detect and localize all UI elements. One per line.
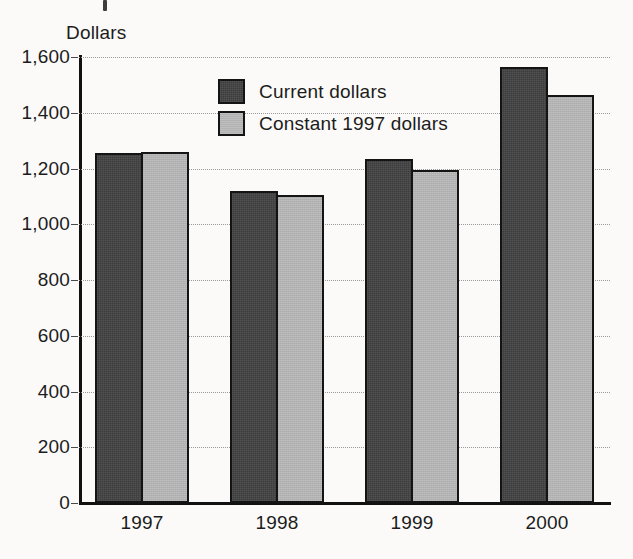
scan-artifact-mark <box>103 0 107 11</box>
y-axis-tick <box>71 447 78 448</box>
x-axis-tick-label-2000: 2000 <box>525 512 568 534</box>
y-axis-tick-label: 800 <box>38 269 70 291</box>
y-axis-tick-label: 1,400 <box>21 102 70 124</box>
legend-item-constant-1997-dollars: Constant 1997 dollars <box>218 111 448 136</box>
legend-label-current-dollars: Current dollars <box>259 81 387 103</box>
bar-1998-current <box>230 191 278 503</box>
y-axis-tick <box>71 280 78 281</box>
bar-1999-current <box>365 159 413 503</box>
y-axis-tick-label: 1,200 <box>21 158 70 180</box>
y-axis-tick <box>71 113 78 114</box>
legend-label-constant-1997-dollars: Constant 1997 dollars <box>259 113 448 135</box>
y-axis-tick <box>71 57 78 58</box>
bar-2000-current <box>500 67 548 503</box>
x-axis-tick-label-1999: 1999 <box>390 512 433 534</box>
legend-swatch-current-dollars <box>218 79 245 104</box>
y-axis-tick-label: 0 <box>59 492 70 514</box>
bar-1997-current <box>95 153 143 503</box>
bar-1999-constant <box>411 170 459 503</box>
legend-item-current-dollars: Current dollars <box>218 79 387 104</box>
bar-2000-constant <box>546 95 594 503</box>
chart-figure: Dollars 02004006008001,0001,2001,4001,60… <box>0 0 633 559</box>
y-axis-tick-labels: 02004006008001,0001,2001,4001,600 <box>0 0 70 559</box>
y-axis-tick <box>71 336 78 337</box>
y-axis-tick <box>71 224 78 225</box>
y-axis-title: Dollars <box>66 22 127 44</box>
x-axis-tick-label-1998: 1998 <box>255 512 298 534</box>
bar-1997-constant <box>141 152 189 503</box>
y-axis-tick <box>71 503 78 504</box>
x-axis-tick-label-1997: 1997 <box>120 512 163 534</box>
y-axis-tick-label: 400 <box>38 381 70 403</box>
y-axis-tick <box>71 392 78 393</box>
y-axis-tick-label: 600 <box>38 325 70 347</box>
y-axis-tick-label: 1,600 <box>21 46 70 68</box>
legend-swatch-constant-1997-dollars <box>218 111 245 136</box>
y-axis-tick-label: 200 <box>38 436 70 458</box>
bar-1998-constant <box>276 195 324 503</box>
y-axis-tick <box>71 169 78 170</box>
y-axis-tick-label: 1,000 <box>21 213 70 235</box>
